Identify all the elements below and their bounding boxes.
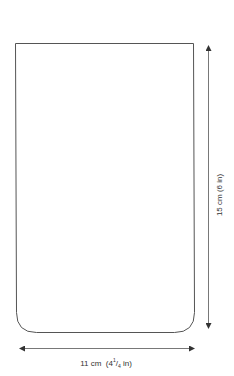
pattern-diagram	[0, 0, 234, 376]
width-label-cm: 11 cm	[80, 359, 101, 368]
width-label-inch-unit: in	[123, 359, 129, 368]
width-label-inch-denominator: 4	[118, 363, 121, 369]
width-label-inch-numerator: 1	[113, 357, 116, 363]
height-dimension-label: 15 cm (6 in)	[215, 174, 224, 216]
width-dimension-label: 11 cm (41/4 in)	[0, 357, 212, 369]
pattern-piece-outline	[16, 44, 195, 333]
